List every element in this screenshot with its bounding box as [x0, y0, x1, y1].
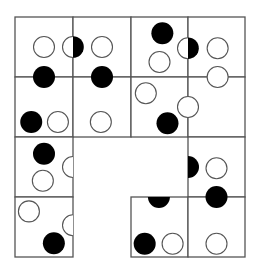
black-stone — [151, 22, 173, 44]
white-stone — [92, 37, 113, 58]
white-stone — [149, 52, 170, 73]
puzzle-board — [0, 0, 258, 272]
split-stone — [177, 37, 199, 59]
white-half-stone — [63, 157, 84, 178]
white-stone — [178, 97, 199, 118]
black-stone — [156, 112, 178, 134]
black-stone — [134, 233, 156, 255]
black-stone — [206, 186, 228, 208]
black-stone — [43, 232, 65, 254]
white-stone — [34, 37, 55, 58]
black-stone — [20, 111, 42, 133]
white-stone — [18, 201, 39, 222]
black-stone — [91, 66, 113, 88]
white-stone — [90, 112, 111, 133]
white-stone — [207, 67, 228, 88]
white-stone — [32, 170, 53, 191]
black-half-stone — [148, 186, 170, 208]
white-stone — [47, 112, 68, 133]
white-half-stone — [63, 215, 84, 236]
white-stone — [207, 38, 228, 59]
white-stone — [162, 233, 183, 254]
white-stone — [135, 83, 156, 104]
puzzle-grid — [0, 0, 258, 272]
split-stone — [62, 36, 84, 58]
black-stone — [33, 143, 55, 165]
white-stone — [206, 158, 227, 179]
black-stone — [33, 66, 55, 88]
white-stone — [206, 233, 227, 254]
black-half-stone — [177, 156, 199, 178]
